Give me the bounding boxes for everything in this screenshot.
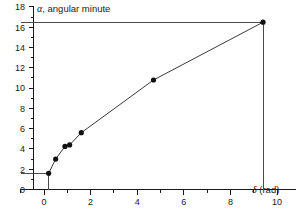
y-tick-label: 4 [20, 144, 25, 154]
x-axis-ticks [21, 190, 277, 195]
chart-container: α, angular minute δ (rad) 02468101214161… [0, 0, 304, 216]
data-point [62, 144, 67, 149]
y-tick-label: 14 [15, 43, 25, 53]
data-point [79, 130, 84, 135]
data-point [67, 142, 72, 147]
x-tick-label: 10 [272, 197, 282, 207]
x-axis-tick-labels: 0246810 [41, 197, 282, 207]
data-point [151, 77, 156, 82]
y-tick-label: 8 [20, 104, 25, 114]
y-axis-title: α, angular minute [37, 3, 110, 14]
y-axis-tick-labels: 024681012141618 [15, 2, 25, 195]
data-point [260, 20, 265, 25]
y-axis-ticks [29, 7, 34, 190]
data-series-line [49, 22, 263, 173]
y-tick-label: 16 [15, 23, 25, 33]
x-tick-label: 6 [181, 197, 186, 207]
guide-lines [21, 22, 263, 189]
y-tick-label: 10 [15, 83, 25, 93]
y-tick-label: 6 [20, 124, 25, 134]
x-tick-label: 8 [228, 197, 233, 207]
y-tick-label: 18 [15, 2, 25, 12]
y-axis-title-text: , angular minute [42, 3, 110, 14]
x-tick-label: 4 [135, 197, 140, 207]
alpha-delta-line-chart: α, angular minute δ (rad) 02468101214161… [0, 0, 304, 216]
x-tick-label: 0 [41, 197, 46, 207]
x-tick-label: 2 [88, 197, 93, 207]
axes [20, 7, 296, 190]
y-tick-label: 12 [15, 63, 25, 73]
data-series-markers [46, 20, 266, 176]
data-point [53, 156, 58, 161]
data-point [46, 171, 51, 176]
